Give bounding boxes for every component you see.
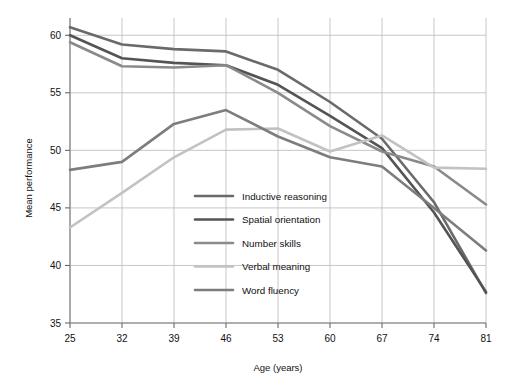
x-tick-label: 53 bbox=[272, 333, 284, 344]
chart-legend: Inductive reasoningSpatial orientationNu… bbox=[195, 191, 327, 296]
x-tick-label: 67 bbox=[376, 333, 388, 344]
x-tick-label: 46 bbox=[220, 333, 232, 344]
x-tick-label: 25 bbox=[64, 333, 76, 344]
y-tick-label: 40 bbox=[50, 260, 62, 271]
x-tick-label: 74 bbox=[428, 333, 440, 344]
legend-label: Word fluency bbox=[242, 285, 299, 296]
y-tick-label: 35 bbox=[50, 318, 62, 329]
x-tick-label: 39 bbox=[168, 333, 180, 344]
legend-label: Spatial orientation bbox=[242, 214, 320, 225]
legend-label: Number skills bbox=[242, 238, 301, 249]
x-axis-label: Age (years) bbox=[253, 362, 302, 373]
legend-label: Verbal meaning bbox=[242, 261, 310, 272]
x-tick-label: 60 bbox=[324, 333, 336, 344]
y-tick-label: 60 bbox=[50, 30, 62, 41]
legend-item: Number skills bbox=[195, 238, 301, 249]
line-chart: 354045505560 253239465360677481 Inductiv… bbox=[0, 0, 529, 385]
x-tick-label: 32 bbox=[116, 333, 128, 344]
y-tick-labels: 354045505560 bbox=[50, 30, 62, 329]
legend-item: Inductive reasoning bbox=[195, 191, 327, 202]
chart-canvas: 354045505560 253239465360677481 Inductiv… bbox=[0, 0, 529, 385]
x-tick-label: 81 bbox=[480, 333, 492, 344]
legend-item: Verbal meaning bbox=[195, 261, 310, 272]
axes bbox=[65, 18, 486, 328]
gridlines bbox=[70, 18, 486, 323]
legend-item: Word fluency bbox=[195, 285, 299, 296]
y-tick-label: 55 bbox=[50, 87, 62, 98]
x-tick-labels: 253239465360677481 bbox=[64, 333, 492, 344]
y-tick-label: 50 bbox=[50, 145, 62, 156]
legend-label: Inductive reasoning bbox=[242, 191, 327, 202]
y-tick-label: 45 bbox=[50, 202, 62, 213]
legend-item: Spatial orientation bbox=[195, 214, 320, 225]
y-axis-label: Mean performance bbox=[23, 138, 34, 218]
